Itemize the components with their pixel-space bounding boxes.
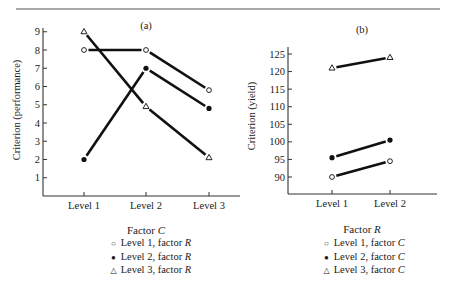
series-line (336, 162, 385, 175)
y-tick-label: 3 (35, 136, 40, 147)
y-tick-label: 105 (269, 119, 285, 130)
legend-b: ○ Level 1, factor C● Level 2, factor C△ … (322, 237, 405, 278)
y-tick-label: 4 (35, 118, 41, 129)
series-open-triangle (329, 54, 393, 70)
series-line (87, 72, 144, 156)
open-circle-marker-icon (207, 88, 212, 93)
legend-factor: C (398, 237, 405, 248)
y-tick-label: 125 (269, 49, 285, 60)
open-triangle-marker-icon (81, 28, 87, 33)
x-axis-label: Factor R (343, 223, 381, 235)
x-tick-label: Level 2 (374, 198, 406, 209)
y-tick-label: 120 (269, 66, 285, 77)
filled-circle-marker-icon (81, 157, 86, 162)
y-tick-label: 6 (35, 81, 40, 92)
y-tick-label: 9 (35, 26, 40, 37)
legend-item: ● Level 2, factor C (322, 251, 405, 265)
legend-marker-icon: ○ (322, 238, 331, 251)
open-circle-marker-icon (144, 48, 149, 53)
x-tick-label: Level 1 (68, 200, 100, 211)
filled-circle-marker-icon (206, 106, 211, 111)
y-tick-label: 1 (35, 172, 40, 183)
chart-title: (b) (356, 24, 369, 36)
y-axis-label: Criterion (performance) (11, 59, 23, 160)
x-tick-label: Level 1 (316, 198, 348, 209)
legend-label: Level 2, factor (331, 251, 398, 262)
filled-circle-marker-icon (329, 155, 334, 160)
legend-factor: R (185, 237, 191, 248)
filled-circle-marker-icon (143, 66, 148, 71)
y-tick-label: 95 (275, 154, 286, 165)
open-triangle-marker-icon (143, 103, 149, 108)
series-open-circle (330, 159, 393, 180)
series-line (150, 71, 205, 106)
legend-item: ○ Level 1, factor R (109, 237, 191, 251)
legend-factor: C (398, 251, 405, 262)
legend-factor: R (185, 264, 191, 275)
chart-title: (a) (140, 20, 152, 32)
y-tick-label: 5 (35, 99, 40, 110)
legend-marker-icon: ○ (109, 238, 118, 251)
open-triangle-marker-icon (206, 154, 212, 159)
legend-factor: C (398, 264, 405, 275)
legend-a: ○ Level 1, factor R● Level 2, factor R△ … (109, 237, 191, 278)
open-circle-marker-icon (82, 48, 87, 53)
series-line (149, 109, 205, 154)
series-line (150, 52, 205, 87)
legend-marker-icon: △ (109, 265, 118, 278)
open-triangle-marker-icon (329, 65, 335, 70)
y-tick-label: 2 (35, 154, 40, 165)
legend-label: Level 3, factor (331, 264, 398, 275)
x-tick-label: Level 3 (193, 200, 225, 211)
legend-item: △ Level 3, factor C (322, 264, 405, 278)
y-tick-label: 115 (270, 84, 285, 95)
x-axis-label: Factor C (127, 224, 166, 236)
legend-label: Level 3, factor (118, 264, 185, 275)
series-line (87, 35, 143, 103)
y-axis-label: Criterion (yield) (246, 81, 258, 150)
y-tick-label: 8 (35, 45, 40, 56)
legend-marker-icon: △ (322, 265, 331, 278)
y-tick-label: 100 (269, 136, 285, 147)
open-circle-marker-icon (388, 159, 393, 164)
legend-item: △ Level 3, factor R (109, 264, 191, 278)
series-line (336, 141, 385, 156)
legend-label: Level 1, factor (331, 237, 398, 248)
series-line (336, 58, 385, 67)
legend-factor: R (185, 251, 191, 262)
open-triangle-marker-icon (387, 54, 393, 59)
legend-label: Level 2, factor (118, 251, 185, 262)
legend-item: ○ Level 1, factor C (322, 237, 405, 251)
y-tick-label: 90 (275, 172, 286, 183)
chart-b: 9095100105110115120125Level 1Level 2(b)F… (246, 24, 437, 235)
y-tick-label: 7 (35, 63, 40, 74)
legend-item: ● Level 2, factor R (109, 251, 191, 265)
chart-a: 123456789Level 1Level 2Level 3(a)Factor … (11, 20, 240, 236)
legend-marker-icon: ● (322, 252, 331, 265)
legend-marker-icon: ● (109, 252, 118, 265)
filled-circle-marker-icon (387, 138, 392, 143)
legend-label: Level 1, factor (118, 237, 185, 248)
y-tick-label: 110 (270, 101, 285, 112)
series-filled-circle (329, 138, 392, 161)
x-tick-label: Level 2 (130, 200, 162, 211)
open-circle-marker-icon (330, 175, 335, 180)
